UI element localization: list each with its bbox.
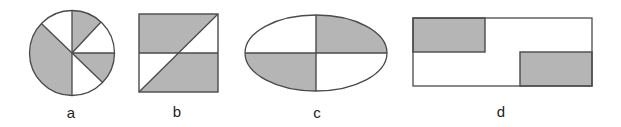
ellipse-shaded-bottom-left	[245, 53, 316, 91]
rectangle-shaded-top-left	[413, 18, 485, 52]
label-b: b	[173, 103, 181, 120]
panel-b-square	[139, 14, 218, 92]
rectangle-shaded-bottom-right	[520, 52, 592, 86]
fraction-shapes-figure: a b c d	[0, 0, 621, 127]
panel-c-ellipse	[245, 15, 387, 91]
label-d: d	[497, 103, 505, 120]
label-c: c	[313, 104, 321, 121]
label-a: a	[67, 104, 76, 121]
panel-d-rectangle	[413, 18, 592, 86]
ellipse-shaded-top-right	[316, 15, 387, 53]
panel-a-circle	[29, 11, 114, 96]
